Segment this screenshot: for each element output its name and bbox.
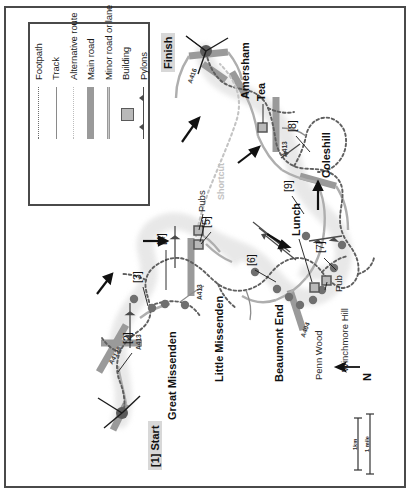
legend-label: Track <box>50 57 61 80</box>
legend-item-track: Track <box>48 0 64 139</box>
legend-label: Pylons <box>138 52 149 80</box>
place-penn-wood: Penn Wood <box>313 331 324 380</box>
legend-item-footpath: Footpath <box>30 0 46 139</box>
legend-label: Minor road or lane <box>103 5 114 80</box>
pylon-line-icon <box>136 87 150 139</box>
legend-label: Alternative route <box>68 13 79 80</box>
legend-inner: Footpath Track Alternative route Main ro… <box>30 0 152 146</box>
legend-item-pylons: Pylons <box>135 0 151 139</box>
waypoint-8-label: [8] <box>286 120 298 132</box>
shortcut-label: Shortcut <box>216 163 226 200</box>
road-label-a413-missenden: A413 <box>135 334 142 350</box>
lunch-label: Lunch <box>290 203 302 236</box>
legend-item-alternative-route: Alternative route <box>65 0 81 139</box>
place-great-missenden-line1: Great Missenden <box>166 331 178 420</box>
finish-label: Finish <box>161 33 175 72</box>
legend-box: Footpath Track Alternative route Main ro… <box>28 22 150 206</box>
road-label-a413-amersham: A413 <box>281 141 288 157</box>
legend-label: Building <box>120 47 131 80</box>
legend-item-main-road: Main road <box>83 0 99 139</box>
pub-label: Pub <box>333 275 344 292</box>
dotted-line-light-icon <box>66 87 80 139</box>
waypoint-7-label: [7] <box>314 241 326 253</box>
pubs-label: Pubs <box>196 190 207 212</box>
place-little-missenden: Little Missenden <box>213 296 225 382</box>
map-page: Footpath Track Alternative route Main ro… <box>0 0 412 495</box>
road-label-a413-little-missenden: A413 <box>196 284 203 300</box>
scale-label-km: 1km <box>352 439 358 450</box>
place-coleshill: Coleshill <box>320 132 332 178</box>
scale-label-mile: 1 mile <box>364 436 370 452</box>
north-arrow-label: N <box>361 373 373 381</box>
place-amersham: Amersham <box>239 42 251 99</box>
legend-item-minor-road: Minor road or lane <box>100 0 116 139</box>
thin-double-line-icon <box>101 87 115 139</box>
dotted-line-dark-icon <box>31 87 45 139</box>
thick-grey-bar-icon <box>84 87 98 139</box>
place-beaumont-end: Beaumont End <box>273 304 285 382</box>
waypoint-9-label: [9] <box>282 180 294 192</box>
legend-label: Main road <box>85 39 96 80</box>
waypoint-2-label: [2] <box>121 332 133 344</box>
square-building-icon <box>119 87 133 139</box>
legend-label: Footpath <box>33 43 44 80</box>
waypoint-4-label: [4] <box>155 233 167 245</box>
solid-thin-line-icon <box>49 87 63 139</box>
waypoint-3-label: [3] <box>131 271 143 283</box>
waypoint-6-label: [6] <box>245 254 257 266</box>
waypoint-1-start-label: [1] Start <box>148 421 162 470</box>
tea-label: Tea <box>255 83 267 101</box>
waypoint-5-label: [5] <box>200 216 212 228</box>
legend-item-building: Building <box>118 0 134 139</box>
